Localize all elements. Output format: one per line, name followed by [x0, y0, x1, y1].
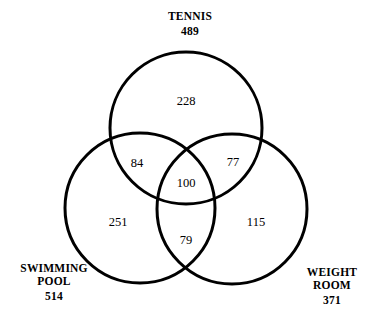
set-name-tennis: TENNIS	[140, 10, 240, 23]
set-name-weight-room-line2: ROOM	[296, 279, 368, 292]
set-label-swimming-pool: SWIMMING POOL 514	[2, 262, 106, 303]
set-total-tennis: 489	[140, 25, 240, 38]
set-name-swimming-pool-line1: SWIMMING	[2, 262, 106, 275]
venn-diagram: TENNIS 489 SWIMMING POOL 514 WEIGHT ROOM…	[0, 0, 369, 321]
set-label-weight-room: WEIGHT ROOM 371	[296, 266, 368, 307]
region-value-swim-only: 251	[109, 216, 128, 229]
region-value-tennis-weight: 77	[227, 156, 240, 169]
region-value-all-three: 100	[177, 177, 196, 190]
set-total-weight-room: 371	[296, 294, 368, 307]
region-value-tennis-swim: 84	[131, 157, 144, 170]
set-name-swimming-pool-line2: POOL	[2, 275, 106, 288]
region-value-tennis-only: 228	[177, 95, 196, 108]
set-total-swimming-pool: 514	[2, 290, 106, 303]
set-label-tennis: TENNIS 489	[140, 10, 240, 38]
set-name-weight-room-line1: WEIGHT	[296, 266, 368, 279]
region-value-weight-only: 115	[247, 216, 265, 229]
region-value-swim-weight: 79	[180, 234, 193, 247]
